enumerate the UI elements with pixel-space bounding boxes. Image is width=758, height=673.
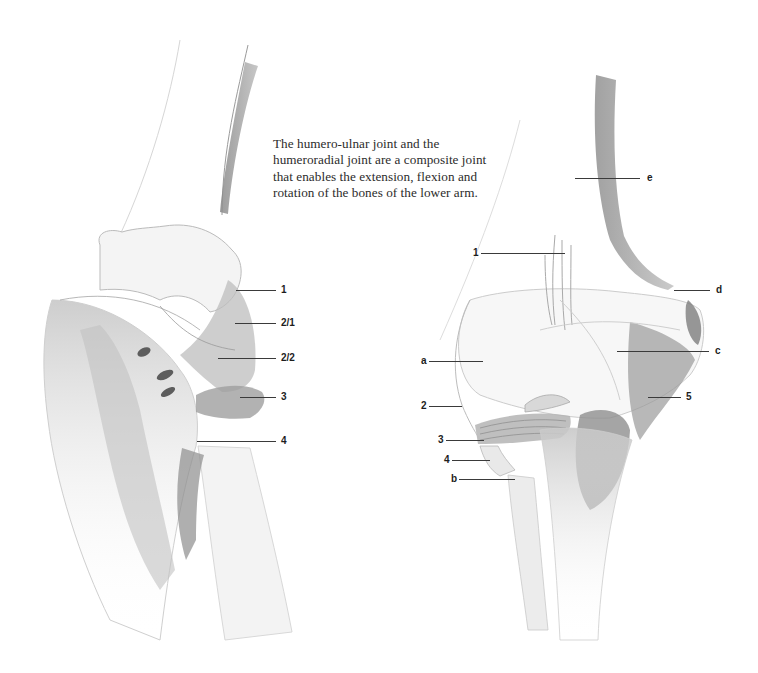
caption-line-3: that enables the extension, flexion and — [273, 169, 513, 185]
label-left-2-2: 2/2 — [281, 353, 295, 363]
anatomy-illustration-page: The humero-ulnar joint and the humerorad… — [0, 0, 758, 673]
elbow-joint-drawings — [0, 0, 758, 673]
leader-line — [429, 361, 483, 362]
leader-line — [446, 440, 484, 441]
leader-line — [459, 479, 515, 480]
leader-line — [575, 178, 640, 179]
caption-paragraph: The humero-ulnar joint and the humerorad… — [273, 136, 513, 202]
label-right-d: d — [716, 285, 722, 295]
leader-line — [617, 351, 709, 352]
label-left-3: 3 — [281, 392, 287, 402]
leader-line — [218, 358, 276, 359]
leader-line — [429, 406, 462, 407]
leader-line — [236, 290, 276, 291]
caption-line-2: humeroradial joint are a composite joint — [273, 152, 513, 168]
leader-line — [235, 323, 276, 324]
label-right-b: b — [451, 474, 457, 484]
label-right-e: e — [647, 173, 653, 183]
leader-line — [648, 397, 681, 398]
label-left-2-1: 2/1 — [281, 318, 295, 328]
caption-line-1: The humero-ulnar joint and the — [273, 136, 513, 152]
label-right-1: 1 — [473, 248, 479, 258]
label-right-a: a — [421, 356, 427, 366]
label-right-4: 4 — [444, 455, 450, 465]
label-right-c: c — [715, 346, 721, 356]
label-right-2: 2 — [421, 401, 427, 411]
label-left-1: 1 — [281, 285, 287, 295]
label-left-4: 4 — [281, 436, 287, 446]
leader-line — [481, 253, 565, 254]
leader-line — [197, 441, 276, 442]
left-elbow-drawing — [44, 40, 292, 640]
label-right-5: 5 — [686, 392, 692, 402]
caption-line-4: rotation of the bones of the lower arm. — [273, 185, 513, 201]
label-right-3: 3 — [438, 435, 444, 445]
leader-line — [240, 397, 276, 398]
leader-line — [452, 460, 490, 461]
leader-line — [674, 290, 710, 291]
